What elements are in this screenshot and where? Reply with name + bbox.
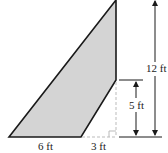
label-base: 6 ft [38, 140, 53, 152]
label-total-height: 12 ft [146, 62, 166, 74]
geometry-diagram: 6 ft 3 ft 5 ft 12 ft [0, 0, 168, 153]
shaded-shape [9, 0, 116, 137]
right-angle-marker [109, 131, 116, 137]
label-offset: 3 ft [91, 140, 106, 152]
label-short-height: 5 ft [129, 99, 144, 111]
